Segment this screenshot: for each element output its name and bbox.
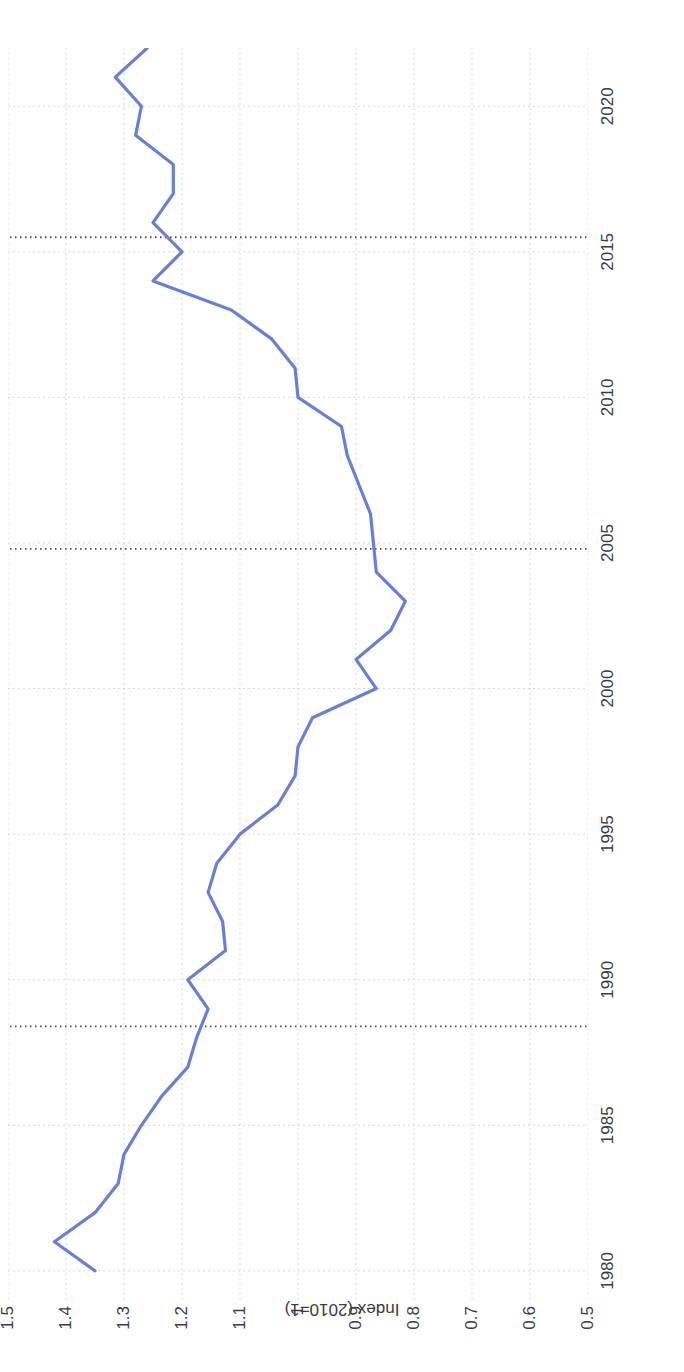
plot-area [8,48,588,1300]
x-tick-label: 2015 [598,233,618,271]
data-series-line [54,48,405,1271]
y-tick-label: 1.4 [56,1306,76,1360]
chart-canvas: Index (2010=1) 1.51.41.31.21.110.90.80.7… [0,0,684,1372]
x-tick-label: 1995 [598,815,618,853]
y-tick-label: 0.9 [346,1306,366,1360]
x-tick-label: 2000 [598,670,618,708]
x-tick-label: 1980 [598,1252,618,1290]
x-tick-label: 1990 [598,961,618,999]
y-tick-label: 1.3 [114,1306,134,1360]
x-tick-label: 2010 [598,378,618,416]
y-tick-label: 0.5 [578,1306,598,1360]
y-tick-label: 1 [288,1306,308,1360]
x-tick-label: 1985 [598,1106,618,1144]
figure-root: Index (2010=1) 1.51.41.31.21.110.90.80.7… [0,0,684,1372]
y-tick-label: 0.6 [520,1306,540,1360]
chart-inner: Index (2010=1) 1.51.41.31.21.110.90.80.7… [0,0,684,1372]
y-tick-label: 1.1 [230,1306,250,1360]
x-tick-label: 2005 [598,524,618,562]
line-chart-svg [8,48,588,1300]
y-axis-tick-labels: 1.51.41.31.21.110.90.80.70.60.5 [8,1306,588,1364]
y-tick-label: 1.2 [172,1306,192,1360]
y-tick-label: 1.5 [0,1306,18,1360]
y-tick-label: 0.7 [462,1306,482,1360]
y-tick-label: 0.8 [404,1306,424,1360]
x-tick-label: 2020 [598,87,618,125]
